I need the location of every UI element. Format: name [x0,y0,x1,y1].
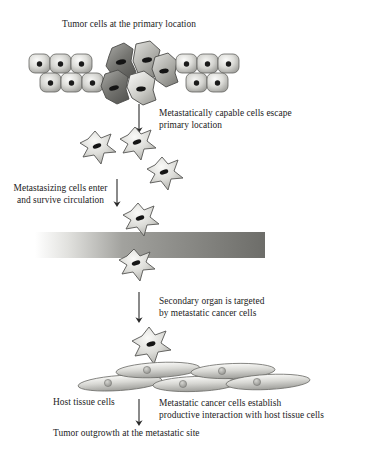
nucleus [194,80,199,85]
epithelial-cell [50,54,71,73]
transformed-tumor-cell-group [101,41,178,105]
epithelial-cell [176,54,197,73]
metastatic-star-cell [147,157,183,190]
epithelial-cell [186,73,207,92]
epithelial-cell-group-left [29,54,103,92]
label-escape: Metastatically capable cells escape prim… [159,108,364,131]
epithelial-cell [207,73,228,92]
label-host-tissue-cells: Host tissue cells [53,397,163,409]
nucleus [205,61,210,66]
nucleus [184,61,189,66]
epithelial-cell [71,54,92,73]
nucleus [104,379,111,386]
transformed-tumor-cell [152,53,178,87]
nucleus [226,61,231,66]
label-secondary-organ: Secondary organ is targeted by metastati… [159,296,359,319]
nucleus [58,61,63,66]
epithelial-cell [40,73,61,92]
transformed-tumor-cell [127,71,156,105]
host-tissue-cell-layer [78,360,311,393]
label-interaction: Metastatic cancer cells establish produc… [159,398,367,421]
metastatic-star-cell [120,127,156,160]
blood-vessel [35,232,265,258]
nucleus [179,380,186,387]
metastasis-diagram: Tumor cells at the primary location Meta… [0,0,369,451]
nucleus [143,366,150,373]
epithelial-cell [29,54,50,73]
nucleus [79,61,84,66]
nucleus [218,367,225,374]
nucleus [90,80,95,85]
epithelial-cell [61,73,82,92]
nucleus [253,378,260,385]
label-outgrowth: Tumor outgrowth at the metastatic site [53,428,303,440]
nucleus [69,80,74,85]
epithelial-cell-group-right [176,54,239,92]
metastatic-star-cell-intravasating [123,203,159,236]
label-primary-tumor: Tumor cells at the primary location [62,19,292,31]
escaping-metastatic-cells [80,127,183,190]
primary-tumor-cell-cluster [29,41,239,105]
nucleus [48,80,53,85]
metastatic-star-cell-seeding [132,327,171,364]
transformed-tumor-cell [101,70,129,104]
epithelial-cell [218,54,239,73]
diagram-canvas [0,0,369,451]
epithelial-cell [82,73,103,92]
metastatic-star-cell [80,131,116,164]
label-circulation: Metastasizing cells enter and survive ci… [8,183,113,206]
nucleus [215,80,220,85]
nucleus [37,61,42,66]
epithelial-cell [197,54,218,73]
